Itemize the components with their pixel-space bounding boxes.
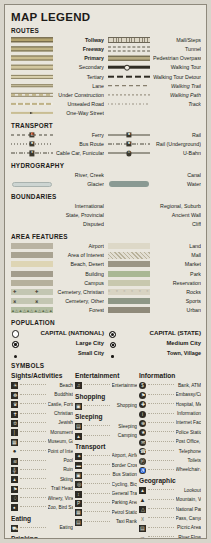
area-swatch: ✚ ✚ ✚ xyxy=(11,288,53,295)
legend-row: Tertiary xyxy=(11,72,104,81)
legend-row: Medium City xyxy=(108,338,201,348)
museum-icon: ▦ xyxy=(11,439,18,446)
sleeping-icon: ▤ xyxy=(75,423,82,430)
winery-icon: ♢ xyxy=(11,495,18,502)
legend-label: State, Provincial xyxy=(56,212,104,218)
legend-label: Urban xyxy=(153,307,201,313)
hydrography-column-left: River, Creek Glacier xyxy=(11,171,104,189)
symbol-label: Picnic Area xyxy=(176,525,202,531)
symbol-label: Trail Head xyxy=(48,486,74,492)
route-swatch xyxy=(11,110,53,117)
page-title: MAP LEGEND xyxy=(11,11,201,23)
symbol-label: Taxi Rank xyxy=(112,519,138,525)
legend-row: International xyxy=(11,202,104,211)
legend-label: Disputed xyxy=(56,221,104,227)
legend-label: Airport xyxy=(56,243,104,249)
bank-atm-icon: $ xyxy=(139,382,146,389)
toilets-icon: Ⓟ xyxy=(139,458,146,465)
symbol-label: Skiing xyxy=(48,477,74,483)
symbol-label: Zoo, Bird Sanctuary xyxy=(48,505,74,511)
legend-row: Canal xyxy=(108,171,201,180)
legend-row: State, Provincial xyxy=(11,211,104,220)
legend-row: ■Rail xyxy=(108,131,201,140)
population-column-right: CAPITAL (STATE) Medium City Town, Villag… xyxy=(108,328,201,358)
legend-label: Bus Route xyxy=(56,141,104,147)
legend-row: CAPITAL (NATIONAL) xyxy=(11,328,104,338)
legend-label: Primary xyxy=(56,55,104,61)
legend-label: Cable Car, Funicular xyxy=(56,150,104,156)
boundary-swatch xyxy=(11,221,53,228)
buddhist-icon: ☸ xyxy=(11,392,18,399)
petrol-station-icon: ▦ xyxy=(75,509,82,516)
beach-icon: ☀ xyxy=(11,382,18,389)
legend-label: Under Construction xyxy=(56,92,104,98)
symbol-label: Bus Station xyxy=(112,472,138,478)
symbol-label: Petrol Station xyxy=(112,510,138,516)
legend-row: River, Creek xyxy=(11,171,104,180)
bus-station-icon: ▣ xyxy=(75,472,82,479)
area-swatch xyxy=(108,307,150,314)
area-features-column-right: Land Mall Market Park Reservation ○○○○○○… xyxy=(108,242,201,316)
population-section: CAPITAL (NATIONAL) Large City Small City… xyxy=(11,328,201,358)
legend-row: CAPITAL (STATE) xyxy=(108,328,201,338)
legend-row: Unsealed Road xyxy=(11,100,104,109)
legend-row: Area of Interest xyxy=(11,251,104,260)
ruin-icon: ╬ xyxy=(11,467,18,474)
legend-label: Tollway xyxy=(56,37,104,43)
symbol-row: ≋Pool xyxy=(11,456,73,465)
legend-label: Mall xyxy=(153,252,201,258)
section-heading-boundaries: BOUNDARIES xyxy=(11,193,201,200)
hydrography-section: River, Creek Glacier Canal Water xyxy=(11,171,201,189)
legend-label: Beach, Desert xyxy=(56,261,104,267)
legend-row: Mall xyxy=(108,251,201,260)
x-pattern: ✖ ✖ ✖ xyxy=(11,298,53,305)
route-swatch xyxy=(108,64,150,71)
legend-row: Park xyxy=(108,269,201,278)
cross-pattern: ✚ ✚ ✚ xyxy=(11,288,53,295)
castle-icon: ♛ xyxy=(11,401,18,408)
area-swatch xyxy=(108,242,150,249)
legend-row: Walking Tour xyxy=(108,63,201,72)
legend-label: CAPITAL (STATE) xyxy=(121,329,201,336)
legend-label: Land xyxy=(153,243,201,249)
legend-label: Building xyxy=(56,271,104,277)
river-flow-icon: → xyxy=(139,534,146,539)
internet-facilities-icon: ⊕ xyxy=(139,420,146,427)
symbol-label: Castle, Fortress xyxy=(48,402,74,408)
group-title-drinking: Drinking xyxy=(11,535,73,539)
legend-row: One-Way Street xyxy=(11,109,104,118)
symbol-row: ▲Camping xyxy=(75,431,137,440)
transport-swatch: ■ xyxy=(108,141,150,148)
legend-label: River, Creek xyxy=(56,172,104,178)
legend-label: International xyxy=(56,203,104,209)
symbol-row: ♛Castle, Fortress xyxy=(11,400,73,409)
group-title-eating: Eating xyxy=(11,515,73,523)
symbol-label: Post Office, GPO xyxy=(176,439,202,445)
legend-label: Tunnel xyxy=(153,46,201,52)
legend-row: Sports xyxy=(108,297,201,306)
town-village-icon xyxy=(108,344,117,362)
group-title-entertainment: Entertainment xyxy=(75,372,137,380)
canal-swatch xyxy=(108,172,150,179)
symbol-row: ▤Sleeping xyxy=(75,422,137,431)
legend-label: CAPITAL (NATIONAL) xyxy=(24,329,104,336)
legend-label: Cemetery, Other xyxy=(56,298,104,304)
skiing-icon: ▲ xyxy=(11,476,18,483)
legend-label: Large City xyxy=(24,340,104,346)
rail-underground-icon: ■ xyxy=(126,142,131,147)
legend-row: Mall/Steps xyxy=(108,36,201,45)
route-swatch xyxy=(11,91,53,98)
symbol-row: ✝Christian xyxy=(11,409,73,418)
legend-label: Reservation xyxy=(153,280,201,286)
point-of-interest-icon: ● xyxy=(11,448,18,455)
symbol-label: Hospital, Medical xyxy=(176,402,202,408)
picnic-area-icon: ▤ xyxy=(139,525,146,532)
population-column-left: CAPITAL (NATIONAL) Large City Small City xyxy=(11,328,104,358)
area-swatch xyxy=(11,242,53,249)
pool-icon: ≋ xyxy=(11,458,18,465)
boundaries-column-left: International State, Provincial Disputed xyxy=(11,202,104,230)
transport-column-left: ⛵Ferry ■Bus Route ●Cable Car, Funicular xyxy=(11,131,104,159)
route-swatch xyxy=(108,45,150,52)
legend-label: Mall/Steps xyxy=(153,37,201,43)
mall-hatch xyxy=(108,252,150,259)
